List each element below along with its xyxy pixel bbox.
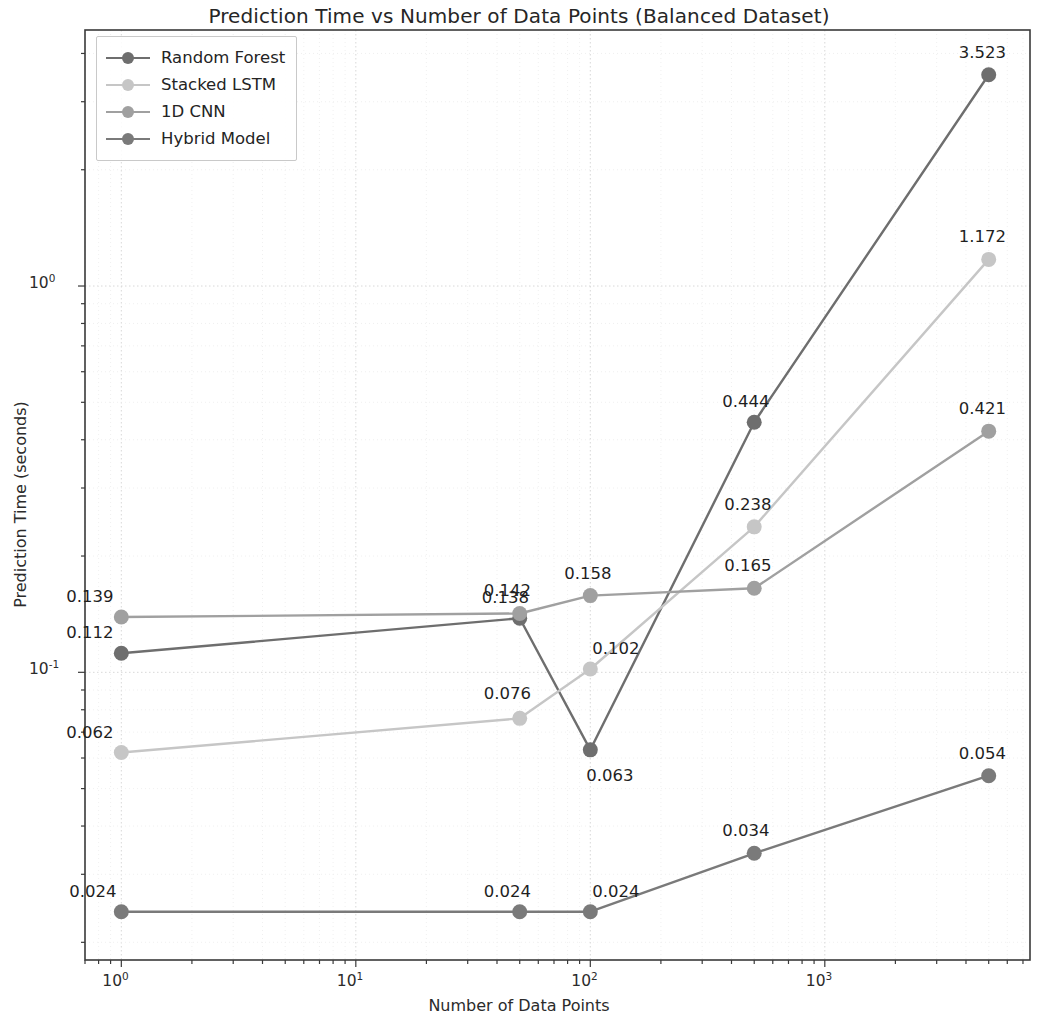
legend-marker-stacked-lstm [106, 78, 150, 92]
figure-canvas: Prediction Time vs Number of Data Points… [0, 0, 1038, 1024]
data-point-label: 0.024 [69, 882, 116, 901]
legend-label-stacked-lstm: Stacked LSTM [161, 75, 276, 94]
legend-label-hybrid-model: Hybrid Model [161, 129, 270, 148]
data-point-label: 0.054 [959, 744, 1006, 763]
chart-legend: Random Forest Stacked LSTM 1D CNN Hybrid… [96, 36, 297, 161]
data-point [747, 581, 762, 596]
legend-label-random-forest: Random Forest [161, 48, 285, 67]
data-point-label: 0.112 [66, 623, 113, 642]
data-point-label: 0.142 [484, 581, 531, 600]
data-point [583, 742, 598, 757]
data-point-label: 0.024 [484, 882, 531, 901]
y-tick-label-0: 100 [29, 274, 55, 292]
data-point-label: 0.062 [66, 723, 113, 742]
data-point [981, 252, 996, 267]
data-point [512, 711, 527, 726]
data-point [583, 904, 598, 919]
data-point [114, 646, 129, 661]
data-point-label: 0.024 [592, 882, 639, 901]
legend-item-stacked-lstm[interactable]: Stacked LSTM [106, 71, 285, 98]
data-point [747, 519, 762, 534]
data-point [114, 610, 129, 625]
data-point [747, 415, 762, 430]
y-tick-label-1: 10-1 [29, 660, 59, 678]
data-point-label: 3.523 [959, 43, 1006, 62]
legend-label-1d-cnn: 1D CNN [161, 102, 226, 121]
data-point-label: 0.165 [724, 556, 771, 575]
data-point [512, 904, 527, 919]
legend-marker-random-forest [106, 51, 150, 65]
data-point-label: 1.172 [959, 227, 1006, 246]
data-point [981, 67, 996, 82]
x-tick-label-2: 102 [571, 972, 597, 990]
data-point-label: 0.238 [724, 495, 771, 514]
data-point [981, 424, 996, 439]
legend-marker-hybrid-model [106, 132, 150, 146]
data-point-label: 0.421 [959, 399, 1006, 418]
data-point [114, 745, 129, 760]
legend-item-hybrid-model[interactable]: Hybrid Model [106, 125, 285, 152]
data-point [747, 846, 762, 861]
data-point-label: 0.139 [66, 587, 113, 606]
data-point-label: 0.063 [586, 766, 633, 785]
data-point [583, 661, 598, 676]
x-tick-label-3: 103 [806, 972, 832, 990]
x-tick-label-1: 101 [337, 972, 363, 990]
data-point-label: 0.158 [564, 564, 611, 583]
data-point-label: 0.034 [722, 821, 769, 840]
legend-marker-1d-cnn [106, 105, 150, 119]
data-point [114, 904, 129, 919]
data-point-label: 0.102 [592, 639, 639, 658]
data-point [512, 606, 527, 621]
data-point [583, 588, 598, 603]
data-point [981, 768, 996, 783]
legend-item-1d-cnn[interactable]: 1D CNN [106, 98, 285, 125]
legend-item-random-forest[interactable]: Random Forest [106, 44, 285, 71]
x-tick-label-0: 100 [102, 972, 128, 990]
data-point-label: 0.076 [484, 684, 531, 703]
data-point-label: 0.444 [722, 392, 769, 411]
